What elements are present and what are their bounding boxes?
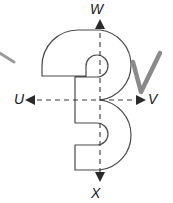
arrowhead-right-icon — [136, 95, 146, 105]
arrowhead-up-icon — [95, 19, 105, 29]
check-mark-icon — [133, 53, 160, 92]
axis-label-top: W — [90, 2, 103, 16]
diagram-canvas: W X U V — [0, 0, 173, 203]
partial-stroke-icon — [0, 52, 14, 62]
arrowhead-down-icon — [95, 172, 105, 182]
arrowhead-left-icon — [25, 95, 35, 105]
axis-label-bottom: X — [91, 186, 100, 200]
axis-label-left: U — [14, 92, 24, 106]
axis-label-right: V — [148, 92, 157, 106]
